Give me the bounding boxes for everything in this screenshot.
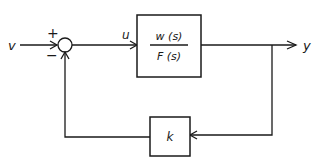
input-label: v — [8, 38, 16, 53]
transfer-numerator: w (s) — [156, 30, 183, 43]
summing-junction — [58, 38, 72, 52]
feedback-block: k — [150, 117, 190, 156]
control-signal — [72, 41, 137, 49]
output-signal — [201, 41, 296, 49]
transfer-denominator: F (s) — [157, 50, 181, 63]
forward-block: w (s) F (s) — [137, 15, 201, 77]
control-label: u — [122, 28, 130, 42]
feedback-gain-label: k — [167, 130, 175, 144]
block-diagram: v + − u w (s) F (s) y k — [0, 0, 325, 168]
output-label: y — [302, 38, 311, 53]
feedback-path-right — [190, 45, 272, 139]
plus-sign: + — [47, 25, 59, 41]
minus-sign: − — [46, 47, 58, 63]
